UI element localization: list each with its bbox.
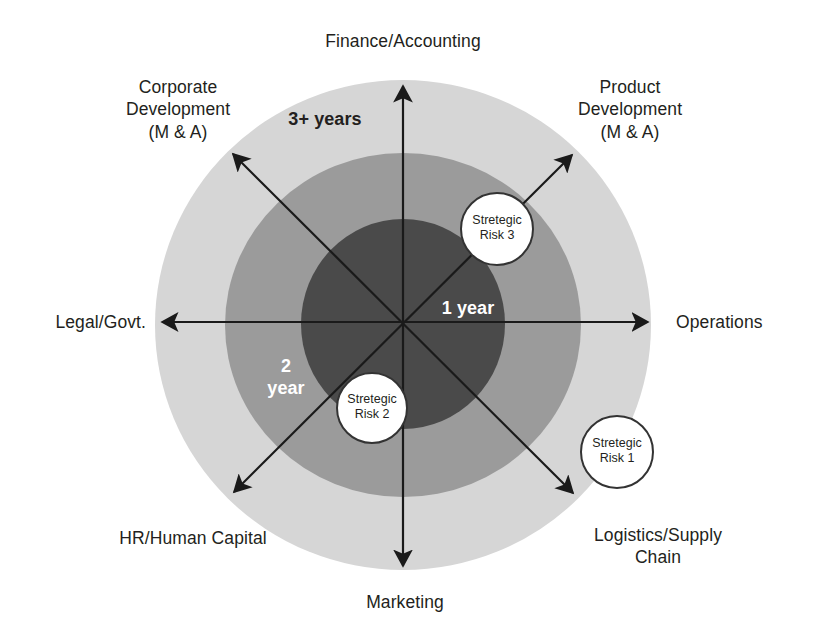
risk-bubble-strategic-risk-2[interactable] <box>337 373 407 443</box>
axis-label-operations: Operations <box>676 311 808 333</box>
risk-radar-diagram: Finance/Accounting Product Development (… <box>0 0 813 639</box>
axis-label-marketing: Marketing <box>315 591 495 613</box>
risk-bubble-strategic-risk-3[interactable] <box>461 193 533 265</box>
axis-label-logistics-supply-chain: Logistics/Supply Chain <box>558 524 758 569</box>
ring-label-2-year: 2 year <box>244 356 328 399</box>
ring-label-3plus-years: 3+ years <box>265 108 385 131</box>
axis-label-corporate-development: Corporate Development (M & A) <box>88 76 268 143</box>
axis-label-product-development: Product Development (M & A) <box>540 76 720 143</box>
axis-label-legal-govt: Legal/Govt. <box>6 311 146 333</box>
risk-bubble-strategic-risk-1[interactable] <box>581 416 653 488</box>
axis-label-finance-accounting: Finance/Accounting <box>283 30 523 52</box>
axis-label-hr-human-capital: HR/Human Capital <box>88 527 298 549</box>
ring-label-1-year: 1 year <box>420 297 516 320</box>
